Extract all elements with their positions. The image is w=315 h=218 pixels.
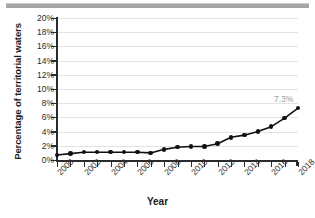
- chart-figure: Percentage of territorial waters 0%2%4%6…: [0, 0, 315, 218]
- series-line-layer: [0, 0, 315, 218]
- data-point: [162, 147, 167, 152]
- data-point: [202, 144, 207, 149]
- data-point: [229, 135, 234, 140]
- data-point: [68, 151, 73, 156]
- x-axis-title: Year: [0, 196, 315, 207]
- data-point: [215, 141, 220, 146]
- data-point: [135, 150, 140, 155]
- data-point-value-label: 7.3%: [274, 94, 293, 104]
- data-point: [242, 133, 247, 138]
- data-point: [256, 129, 261, 134]
- line-chart: Percentage of territorial waters 0%2%4%6…: [0, 0, 315, 218]
- data-point: [148, 151, 153, 156]
- data-point: [189, 144, 194, 149]
